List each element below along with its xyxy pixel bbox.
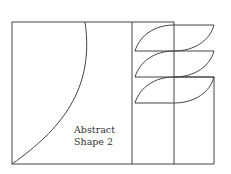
leaf-2-upper	[135, 51, 174, 77]
diagram-label: Abstract Shape 2	[74, 124, 115, 148]
leaf-3-upper	[135, 77, 174, 103]
abstract-shape-diagram	[0, 0, 231, 174]
leaf-1-lower	[174, 25, 214, 51]
leaf-3-lower	[174, 77, 214, 103]
leaf-1-upper	[135, 25, 174, 51]
leaf-2-lower	[174, 51, 214, 77]
label-line-2: Shape 2	[74, 136, 115, 148]
right-extension	[174, 77, 214, 164]
label-line-1: Abstract	[74, 124, 115, 136]
